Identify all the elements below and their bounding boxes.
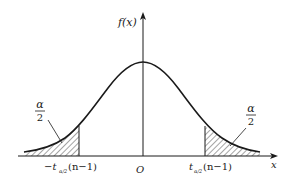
left-critical-value-label: −t α/2 (n−1) <box>44 161 97 174</box>
t-distribution-diagram: f(x) α 2 α 2 −t α/2 (n−1) O t α/2 (n−1) … <box>0 0 293 188</box>
y-axis-label: f(x) <box>117 16 137 29</box>
svg-text:−t: −t <box>44 161 57 172</box>
origin-label: O <box>136 164 144 175</box>
right-critical-value-label: t α/2 (n−1) <box>189 161 232 174</box>
left-alpha-numerator: α <box>36 98 44 111</box>
svg-text:α/2: α/2 <box>194 168 202 174</box>
left-label-leader <box>48 120 62 143</box>
left-alpha-denominator: 2 <box>37 112 43 123</box>
right-alpha-denominator: 2 <box>248 116 254 127</box>
svg-text:(n−1): (n−1) <box>68 161 97 172</box>
right-label-leader <box>230 128 246 146</box>
right-alpha-numerator: α <box>247 102 255 115</box>
x-axis-label: x <box>271 159 277 170</box>
svg-text:(n−1): (n−1) <box>203 161 232 172</box>
svg-text:α/2: α/2 <box>59 168 67 174</box>
